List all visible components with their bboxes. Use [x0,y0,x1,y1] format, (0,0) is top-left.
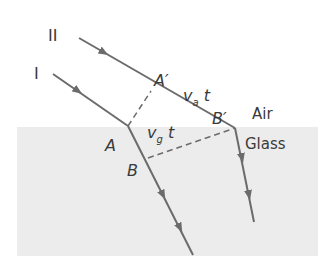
point-a: A [105,138,116,154]
ray-ii-label: II [48,28,57,44]
velocity-subscript: g [156,134,162,145]
distance-glass-label: vg t [147,125,174,141]
point-a-prime: A′ [154,73,169,89]
time-symbol: t [168,123,174,142]
time-symbol: t [204,86,210,105]
ray-i-refracted [128,126,193,255]
medium-glass-label: Glass [245,137,286,152]
velocity-subscript: a [192,97,198,108]
ray-i-incident [53,74,128,126]
point-b-prime: B′ [212,111,227,127]
point-b: B [127,163,138,179]
ray-i-label: I [34,66,39,82]
medium-air-label: Air [252,107,273,122]
distance-air-label: va t [183,88,210,104]
wavefront-air [128,91,151,126]
